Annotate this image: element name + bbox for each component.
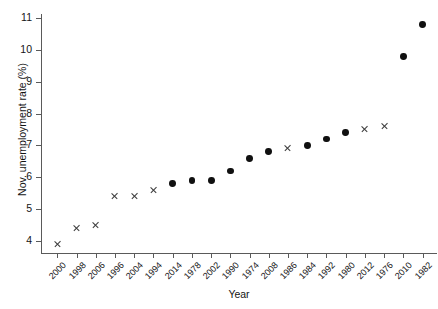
cross-marker-icon bbox=[130, 192, 138, 200]
x-tick-label: 2010 bbox=[393, 260, 414, 281]
y-tick-mark bbox=[36, 82, 41, 83]
filled-circle-marker-icon bbox=[304, 142, 311, 149]
x-tick-mark bbox=[423, 254, 424, 258]
x-axis-spine bbox=[41, 253, 437, 254]
filled-circle-marker-icon bbox=[189, 177, 196, 184]
x-tick-mark bbox=[230, 254, 231, 258]
x-tick-label: 1974 bbox=[239, 260, 260, 281]
y-tick-label: 6 bbox=[6, 170, 32, 182]
filled-circle-marker-icon bbox=[169, 180, 176, 187]
y-tick-mark bbox=[36, 145, 41, 146]
x-tick-mark bbox=[269, 254, 270, 258]
cross-marker-icon bbox=[284, 144, 292, 152]
x-tick-label: 1986 bbox=[278, 260, 299, 281]
filled-circle-marker-icon bbox=[323, 136, 330, 143]
x-tick-label: 1984 bbox=[297, 260, 318, 281]
y-tick-mark bbox=[36, 241, 41, 242]
x-tick-label: 1994 bbox=[143, 260, 164, 281]
x-tick-mark bbox=[134, 254, 135, 258]
filled-circle-marker-icon bbox=[400, 53, 407, 60]
x-tick-mark bbox=[115, 254, 116, 258]
x-tick-mark bbox=[326, 254, 327, 258]
y-tick-mark bbox=[36, 114, 41, 115]
cross-marker-icon bbox=[111, 192, 119, 200]
x-tick-label: 2008 bbox=[259, 260, 280, 281]
x-tick-mark bbox=[384, 254, 385, 258]
x-tick-label: 2012 bbox=[355, 260, 376, 281]
x-tick-label: 1976 bbox=[374, 260, 395, 281]
y-tick-mark bbox=[36, 209, 41, 210]
scatter-chart-figure: Nov. unemployment rate (%) Year 45678910… bbox=[0, 0, 438, 309]
x-tick-label: 1996 bbox=[105, 260, 126, 281]
cross-marker-icon bbox=[72, 224, 80, 232]
x-tick-mark bbox=[250, 254, 251, 258]
x-tick-label: 1978 bbox=[182, 260, 203, 281]
x-tick-label: 1982 bbox=[412, 260, 433, 281]
x-tick-mark bbox=[346, 254, 347, 258]
y-tick-label: 10 bbox=[6, 43, 32, 55]
x-tick-label: 2002 bbox=[201, 260, 222, 281]
x-tick-mark bbox=[77, 254, 78, 258]
y-tick-label: 11 bbox=[6, 11, 32, 23]
y-tick-label: 5 bbox=[6, 202, 32, 214]
y-tick-mark bbox=[36, 50, 41, 51]
x-tick-label: 2000 bbox=[47, 260, 68, 281]
filled-circle-marker-icon bbox=[265, 148, 272, 155]
y-tick-label: 8 bbox=[6, 107, 32, 119]
filled-circle-marker-icon bbox=[419, 21, 426, 28]
y-tick-label: 4 bbox=[6, 234, 32, 246]
x-axis-title: Year bbox=[41, 288, 437, 300]
x-tick-mark bbox=[288, 254, 289, 258]
x-tick-mark bbox=[57, 254, 58, 258]
y-tick-label: 7 bbox=[6, 138, 32, 150]
x-tick-mark bbox=[153, 254, 154, 258]
x-tick-mark bbox=[403, 254, 404, 258]
cross-marker-icon bbox=[92, 221, 100, 229]
x-tick-label: 1992 bbox=[316, 260, 337, 281]
filled-circle-marker-icon bbox=[208, 177, 215, 184]
x-tick-mark bbox=[307, 254, 308, 258]
cross-marker-icon bbox=[53, 240, 61, 248]
x-tick-label: 1998 bbox=[66, 260, 87, 281]
filled-circle-marker-icon bbox=[246, 155, 253, 162]
x-tick-mark bbox=[96, 254, 97, 258]
x-tick-label: 1980 bbox=[336, 260, 357, 281]
filled-circle-marker-icon bbox=[342, 129, 349, 136]
filled-circle-marker-icon bbox=[227, 168, 234, 175]
x-tick-label: 2004 bbox=[124, 260, 145, 281]
y-axis-spine bbox=[41, 14, 42, 254]
cross-marker-icon bbox=[361, 125, 369, 133]
x-tick-mark bbox=[211, 254, 212, 258]
y-tick-mark bbox=[36, 177, 41, 178]
x-tick-label: 1990 bbox=[220, 260, 241, 281]
cross-marker-icon bbox=[380, 122, 388, 130]
x-tick-mark bbox=[173, 254, 174, 258]
x-tick-label: 2006 bbox=[86, 260, 107, 281]
y-tick-mark bbox=[36, 18, 41, 19]
y-tick-label: 9 bbox=[6, 75, 32, 87]
x-tick-label: 2014 bbox=[163, 260, 184, 281]
x-tick-mark bbox=[365, 254, 366, 258]
cross-marker-icon bbox=[149, 186, 157, 194]
x-tick-mark bbox=[192, 254, 193, 258]
